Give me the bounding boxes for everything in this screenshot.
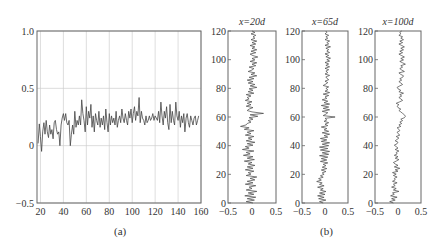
y-tick-label: 60	[216, 112, 226, 123]
y-tick-label: 0	[295, 198, 300, 209]
y-tick-label: 40	[290, 140, 300, 151]
x-tick-label: 0	[396, 206, 401, 217]
x-tick-label: 160	[194, 206, 209, 217]
y-tick-label: 100	[211, 54, 226, 65]
x-tick-label: 0	[323, 206, 328, 217]
y-tick-label: 20	[216, 169, 226, 180]
profile-line	[317, 31, 335, 203]
y-tick-label: 40	[216, 140, 226, 151]
plot-frame	[375, 31, 421, 203]
x-tick-label: 0	[250, 206, 255, 217]
y-tick-label: 60	[290, 112, 300, 123]
x-tick-label: 0.5	[342, 206, 355, 217]
profile-line	[390, 31, 406, 203]
y-tick-label: 80	[216, 83, 226, 94]
x-tick-label: 100	[125, 206, 140, 217]
y-tick-label: 120	[285, 26, 300, 37]
caption-b: (b)	[320, 225, 333, 237]
y-tick-label: 0	[29, 140, 34, 151]
panel-title: x=100d	[381, 16, 414, 27]
y-tick-label: 20	[363, 169, 373, 180]
y-tick-label: 1.0	[22, 26, 35, 37]
caption-a: (a)	[114, 225, 126, 237]
y-tick-label: −0.5	[16, 198, 34, 209]
y-tick-label: 100	[285, 54, 300, 65]
x-tick-label: 140	[171, 206, 186, 217]
x-tick-label: 0.5	[270, 206, 283, 217]
chart-b-profile-x20d: x=20d−0.500.5020406080100120	[211, 16, 282, 217]
y-tick-label: 20	[290, 169, 300, 180]
x-tick-label: 60	[81, 206, 91, 217]
y-tick-label: 0	[368, 198, 373, 209]
profile-line	[241, 31, 264, 203]
y-tick-label: 80	[363, 83, 373, 94]
y-tick-label: 0	[221, 198, 226, 209]
figure: 20406080100120140160−0.500.51.0 x=20d−0.…	[0, 0, 442, 248]
y-tick-label: 60	[363, 112, 373, 123]
plot-frame	[302, 31, 348, 203]
y-tick-label: 120	[211, 26, 226, 37]
x-tick-label: 120	[148, 206, 163, 217]
chart-b-profile-x100d: x=100d−0.500.5020406080100120	[358, 16, 427, 217]
y-tick-label: 120	[358, 26, 373, 37]
panel-title: x=20d	[238, 16, 266, 27]
x-tick-label: 80	[104, 206, 114, 217]
x-tick-label: 20	[35, 206, 45, 217]
signal-line	[38, 98, 199, 152]
y-tick-label: 100	[358, 54, 373, 65]
chart-b-profile-x65d: x=65d−0.500.5020406080100120	[285, 16, 354, 217]
panel-title: x=65d	[311, 16, 339, 27]
y-tick-label: 40	[363, 140, 373, 151]
chart-a-time-series: 20406080100120140160−0.500.51.0	[16, 26, 209, 218]
x-tick-label: 0.5	[415, 206, 428, 217]
y-tick-label: 80	[290, 83, 300, 94]
y-tick-label: 0.5	[22, 83, 35, 94]
x-tick-label: 40	[58, 206, 68, 217]
